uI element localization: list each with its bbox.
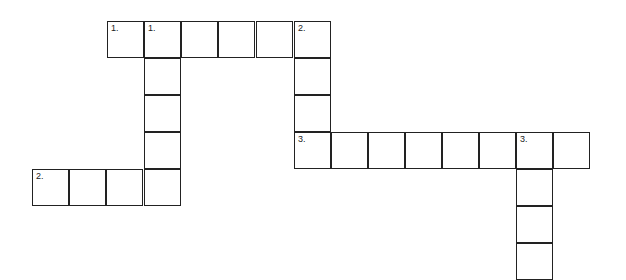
crossword-cell[interactable] [144, 95, 181, 132]
crossword-cell[interactable]: 3. [294, 132, 331, 169]
clue-number: 3. [298, 135, 306, 144]
clue-number: 2. [36, 172, 44, 181]
crossword-cell[interactable]: 1. [144, 21, 181, 58]
crossword-cell[interactable] [331, 132, 368, 169]
crossword-cell[interactable] [553, 132, 590, 169]
crossword-cell[interactable] [294, 58, 331, 95]
crossword-cell[interactable] [516, 206, 553, 243]
clue-number: 1. [148, 24, 156, 33]
crossword-cell[interactable] [368, 132, 405, 169]
clue-number: 3. [520, 135, 528, 144]
crossword-cell[interactable] [144, 169, 181, 206]
clue-number: 2. [298, 24, 306, 33]
crossword-cell[interactable] [256, 21, 293, 58]
crossword-cell[interactable] [218, 21, 255, 58]
crossword-cell[interactable]: 3. [516, 132, 553, 169]
crossword-cell[interactable] [106, 169, 143, 206]
crossword-cell[interactable] [144, 58, 181, 95]
crossword-cell[interactable] [479, 132, 516, 169]
clue-number: 1. [111, 24, 119, 33]
crossword-cell[interactable]: 1. [107, 21, 144, 58]
crossword-cell[interactable] [516, 169, 553, 206]
crossword-cell[interactable] [442, 132, 479, 169]
crossword-cell[interactable] [69, 169, 106, 206]
crossword-cell[interactable] [144, 132, 181, 169]
crossword-cell[interactable]: 2. [32, 169, 69, 206]
crossword-cell[interactable] [405, 132, 442, 169]
crossword-cell[interactable] [294, 95, 331, 132]
crossword-cell[interactable] [181, 21, 218, 58]
crossword-cell[interactable] [516, 243, 553, 280]
crossword-cell[interactable]: 2. [294, 21, 331, 58]
